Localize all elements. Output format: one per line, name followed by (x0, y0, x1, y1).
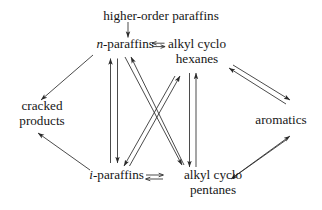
node-n-paraffins-rest: -paraffins (103, 36, 154, 51)
node-i-paraffins-rest: -paraffins (93, 167, 144, 182)
edge-n-paraffins-to-cracked (41, 55, 93, 100)
node-aromatics: aromatics (245, 113, 317, 128)
node-higher-order-paraffins-line-1: higher-order paraffins (0, 9, 322, 24)
node-cracked-products: cracked products (2, 99, 82, 129)
edge-i-paraffins-to-cracked (38, 133, 90, 170)
node-i-paraffins-label: i-paraffins (82, 168, 144, 183)
node-alkyl-cyclo-pentanes-line-1: alkyl cyclo (166, 168, 260, 183)
node-alkyl-cyclo-pentanes-line-2: pentanes (166, 183, 260, 198)
node-alkyl-cyclo-pentanes: alkyl cyclo pentanes (166, 168, 260, 198)
node-cracked-products-line-1: cracked (2, 99, 82, 114)
node-n-paraffins-prefix: n (96, 36, 103, 51)
edge-hexanes-aromatics (229, 65, 290, 104)
node-alkyl-cyclo-hexanes-line-1: alkyl cyclo (150, 37, 244, 52)
node-n-paraffins: n-paraffins (92, 37, 154, 52)
edge-hexanes-pentanes (190, 73, 197, 167)
node-n-paraffins-label: n-paraffins (92, 37, 154, 52)
node-alkyl-cyclo-hexanes-line-2: hexanes (150, 52, 244, 67)
node-aromatics-line-1: aromatics (245, 113, 317, 128)
node-i-paraffins: i-paraffins (82, 168, 144, 183)
edge-hexanes-i-paraffins (124, 76, 180, 166)
edge-i-paraffins-eq-pentanes (146, 173, 164, 181)
node-alkyl-cyclo-hexanes: alkyl cyclo hexanes (150, 37, 244, 67)
node-higher-order-paraffins: higher-order paraffins (0, 9, 322, 24)
edge-n-paraffins-i-paraffins (111, 59, 118, 164)
reaction-network-diagram: Reaction network of paraffin reforming (0, 0, 322, 210)
node-cracked-products-line-2: products (2, 114, 82, 129)
